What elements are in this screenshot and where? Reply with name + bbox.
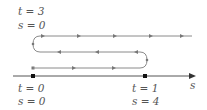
label-origin-t: t = 0 <box>18 82 44 94</box>
label-turn-t-text: t = 1 <box>132 82 158 94</box>
arrow-right-icon <box>77 34 81 38</box>
label-top-t: t = 3 <box>18 5 44 17</box>
arrow-left-icon <box>95 50 99 54</box>
arrow-right-icon <box>41 34 45 38</box>
label-top-s: s = 0 <box>18 19 46 31</box>
turn-point-left <box>32 43 35 46</box>
origin-dot <box>31 74 35 78</box>
turn-point-right <box>146 59 149 62</box>
label-turn-t: t = 1 <box>132 82 158 94</box>
arrow-right-icon <box>149 34 153 38</box>
label-top-t-text: t = 3 <box>18 5 44 17</box>
label-turn-s-text: s = 4 <box>132 95 160 107</box>
arrow-right-icon <box>180 34 184 38</box>
arrow-right-icon <box>72 66 76 70</box>
label-origin-s: s = 0 <box>18 95 46 107</box>
label-origin-t-text: t = 0 <box>18 82 44 94</box>
arrow-right-icon <box>113 34 117 38</box>
arrow-left-icon <box>57 50 61 54</box>
label-turn-s: s = 4 <box>132 95 160 107</box>
arrow-left-icon <box>134 50 138 54</box>
arrow-right-icon <box>112 66 116 70</box>
label-top-s-text: s = 0 <box>18 19 46 31</box>
label-origin-s-text: s = 0 <box>18 95 46 107</box>
axis-label-s-text: s <box>190 79 195 91</box>
turnaround-dot <box>143 74 147 78</box>
axis-label-s: s <box>190 79 195 91</box>
